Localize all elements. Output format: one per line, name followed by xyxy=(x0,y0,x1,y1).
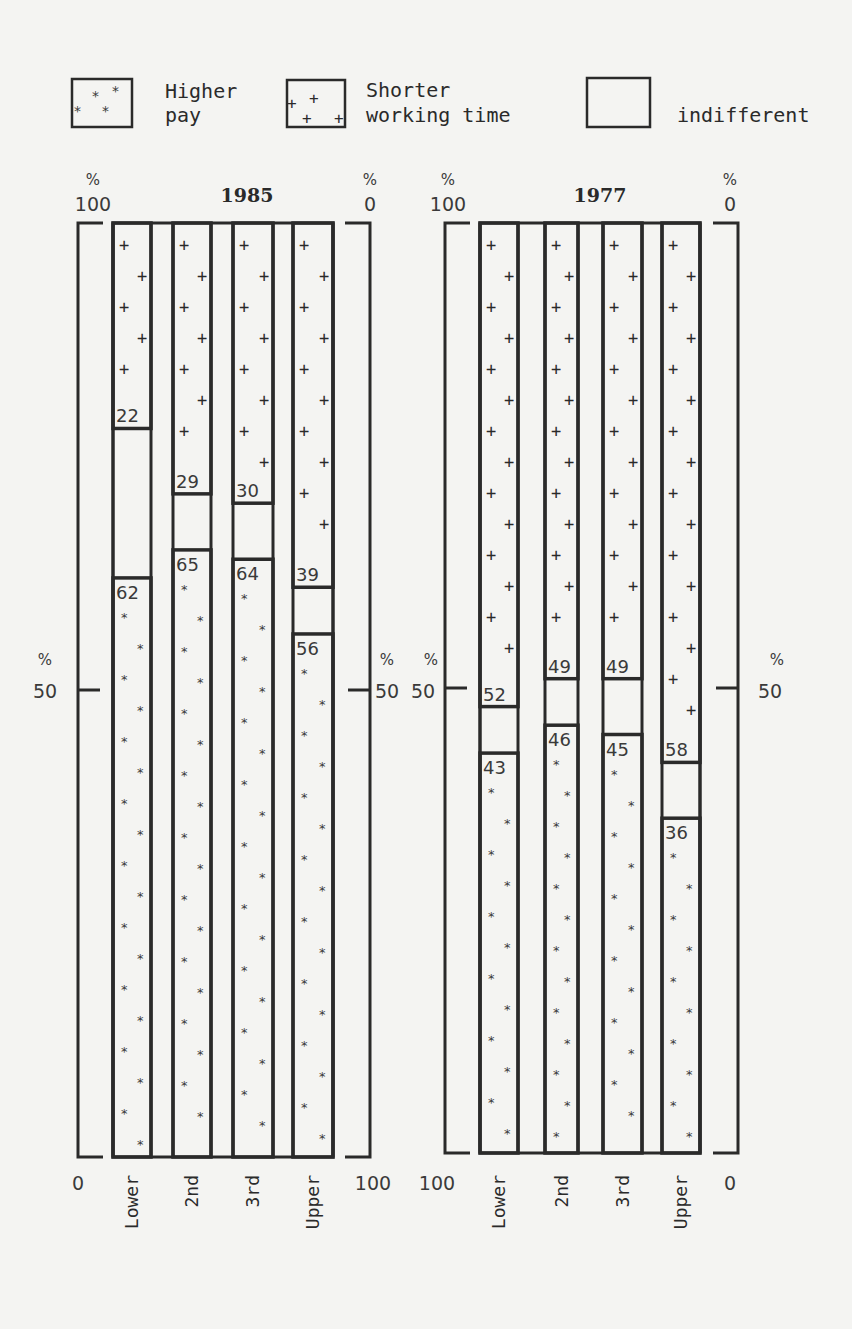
asterisk-icon: * xyxy=(121,858,128,873)
asterisk-icon: * xyxy=(197,1047,204,1062)
plus-icon: + xyxy=(686,452,696,472)
legend-swatch-indifferent xyxy=(587,78,650,127)
asterisk-icon: * xyxy=(137,827,144,842)
left-axis-top-label: 100 xyxy=(430,193,466,215)
asterisk-icon: * xyxy=(137,703,144,718)
asterisk-icon: * xyxy=(241,715,248,730)
asterisk-icon: * xyxy=(301,852,308,867)
right-axis-mid-label: 50 xyxy=(758,680,782,702)
legend-label-higher-pay-2: pay xyxy=(165,103,201,127)
plus-icon: + xyxy=(179,235,189,255)
asterisk-icon: * xyxy=(241,591,248,606)
asterisk-icon: * xyxy=(553,819,560,834)
plus-icon: + xyxy=(486,545,496,565)
asterisk-icon: * xyxy=(112,83,119,99)
asterisk-icon: * xyxy=(686,1067,693,1082)
shorter-time-value-label: 29 xyxy=(176,471,199,492)
legend: * * * * Higher pay + + + + Shorter worki… xyxy=(72,78,809,128)
indifferent-area xyxy=(480,223,700,1153)
asterisk-icon: * xyxy=(319,697,326,712)
asterisk-icon: * xyxy=(121,1106,128,1121)
asterisk-icon: * xyxy=(488,785,495,800)
asterisk-icon: * xyxy=(301,790,308,805)
plus-icon: + xyxy=(551,297,561,317)
asterisk-icon: * xyxy=(488,1033,495,1048)
left-axis-bottom-label: 100 xyxy=(419,1172,455,1194)
asterisk-icon: * xyxy=(553,1067,560,1082)
asterisk-icon: * xyxy=(611,953,618,968)
plus-icon: + xyxy=(504,638,514,658)
higher-pay-value-label: 45 xyxy=(606,739,629,760)
category-label: 2nd xyxy=(551,1175,572,1208)
plus-icon: + xyxy=(609,607,619,627)
plus-icon: + xyxy=(197,390,207,410)
plus-icon: + xyxy=(179,359,189,379)
plus-icon: + xyxy=(179,297,189,317)
plus-icon: + xyxy=(551,483,561,503)
plus-icon: + xyxy=(628,514,638,534)
asterisk-icon: * xyxy=(319,759,326,774)
legend-label-shorter-time-2: working time xyxy=(366,103,511,127)
asterisk-icon: * xyxy=(319,821,326,836)
plus-icon: + xyxy=(287,94,297,113)
shorter-time-value-label: 30 xyxy=(236,480,259,501)
plus-icon: + xyxy=(628,390,638,410)
plus-icon: + xyxy=(609,545,619,565)
asterisk-icon: * xyxy=(686,1129,693,1144)
plus-icon: + xyxy=(259,328,269,348)
plus-icon: + xyxy=(686,266,696,286)
right-axis-unit-mid: % xyxy=(770,651,784,669)
category-label: Lower xyxy=(121,1175,142,1229)
higher-pay-value-label: 43 xyxy=(483,757,506,778)
asterisk-icon: * xyxy=(319,945,326,960)
plus-icon: + xyxy=(239,359,249,379)
left-axis-mid-label: 50 xyxy=(33,680,57,702)
category-label: 2nd xyxy=(181,1175,202,1208)
panel-1985: 1985 % 100 % 0 % 50 % 50 0 100 +++++2262… xyxy=(33,171,399,1229)
asterisk-icon: * xyxy=(197,799,204,814)
category-label: Upper xyxy=(302,1175,323,1229)
bar-higher-pay-3rd xyxy=(233,559,273,1157)
plus-icon: + xyxy=(668,297,678,317)
plus-icon: + xyxy=(486,421,496,441)
asterisk-icon: * xyxy=(611,1077,618,1092)
category-label: Upper xyxy=(670,1175,691,1229)
plus-icon: + xyxy=(179,421,189,441)
asterisk-icon: * xyxy=(301,914,308,929)
plus-icon: + xyxy=(609,297,619,317)
asterisk-icon: * xyxy=(611,829,618,844)
asterisk-icon: * xyxy=(611,1015,618,1030)
plus-icon: + xyxy=(668,483,678,503)
plus-icon: + xyxy=(686,390,696,410)
plus-icon: + xyxy=(197,328,207,348)
plus-icon: + xyxy=(564,328,574,348)
asterisk-icon: * xyxy=(137,951,144,966)
plus-icon: + xyxy=(302,109,312,128)
asterisk-icon: * xyxy=(181,892,188,907)
asterisk-icon: * xyxy=(564,912,571,927)
plus-icon: + xyxy=(319,266,329,286)
asterisk-icon: * xyxy=(628,860,635,875)
plus-icon: + xyxy=(486,297,496,317)
plus-icon: + xyxy=(119,235,129,255)
higher-pay-value-label: 65 xyxy=(176,554,199,575)
asterisk-icon: * xyxy=(259,1118,266,1133)
plus-icon: + xyxy=(628,576,638,596)
asterisk-icon: * xyxy=(74,103,81,119)
plus-icon: + xyxy=(628,452,638,472)
asterisk-icon: * xyxy=(137,1137,144,1152)
bar-higher-pay-3rd xyxy=(603,735,642,1154)
asterisk-icon: * xyxy=(259,1056,266,1071)
right-axis-mid-label: 50 xyxy=(375,680,399,702)
plus-icon: + xyxy=(299,297,309,317)
asterisk-icon: * xyxy=(319,1069,326,1084)
asterisk-icon: * xyxy=(504,1126,511,1141)
asterisk-icon: * xyxy=(259,870,266,885)
asterisk-icon: * xyxy=(259,994,266,1009)
plus-icon: + xyxy=(486,235,496,255)
asterisk-icon: * xyxy=(488,847,495,862)
asterisk-icon: * xyxy=(259,746,266,761)
plus-icon: + xyxy=(239,297,249,317)
right-axis-top-label: 0 xyxy=(724,193,736,215)
asterisk-icon: * xyxy=(121,1044,128,1059)
